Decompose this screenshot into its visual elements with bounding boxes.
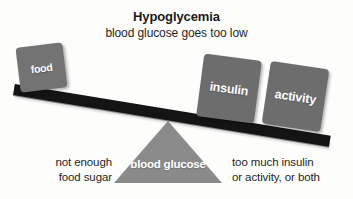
block-insulin: insulin xyxy=(196,53,262,123)
block-food-label: food xyxy=(30,60,53,75)
hypoglycemia-balance-diagram: Hypoglycemia blood glucose goes too low … xyxy=(0,0,353,199)
caption-left: not enough food sugar xyxy=(16,155,112,184)
block-activity-label: activity xyxy=(274,87,317,107)
diagram-title: Hypoglycemia xyxy=(0,9,353,24)
block-insulin-label: insulin xyxy=(209,79,249,98)
block-food: food xyxy=(15,42,67,92)
fulcrum-triangle: blood glucose xyxy=(113,120,223,184)
block-activity: activity xyxy=(262,61,330,132)
caption-right: too much insulin or activity, or both xyxy=(232,155,350,184)
diagram-subtitle: blood glucose goes too low xyxy=(0,26,353,40)
